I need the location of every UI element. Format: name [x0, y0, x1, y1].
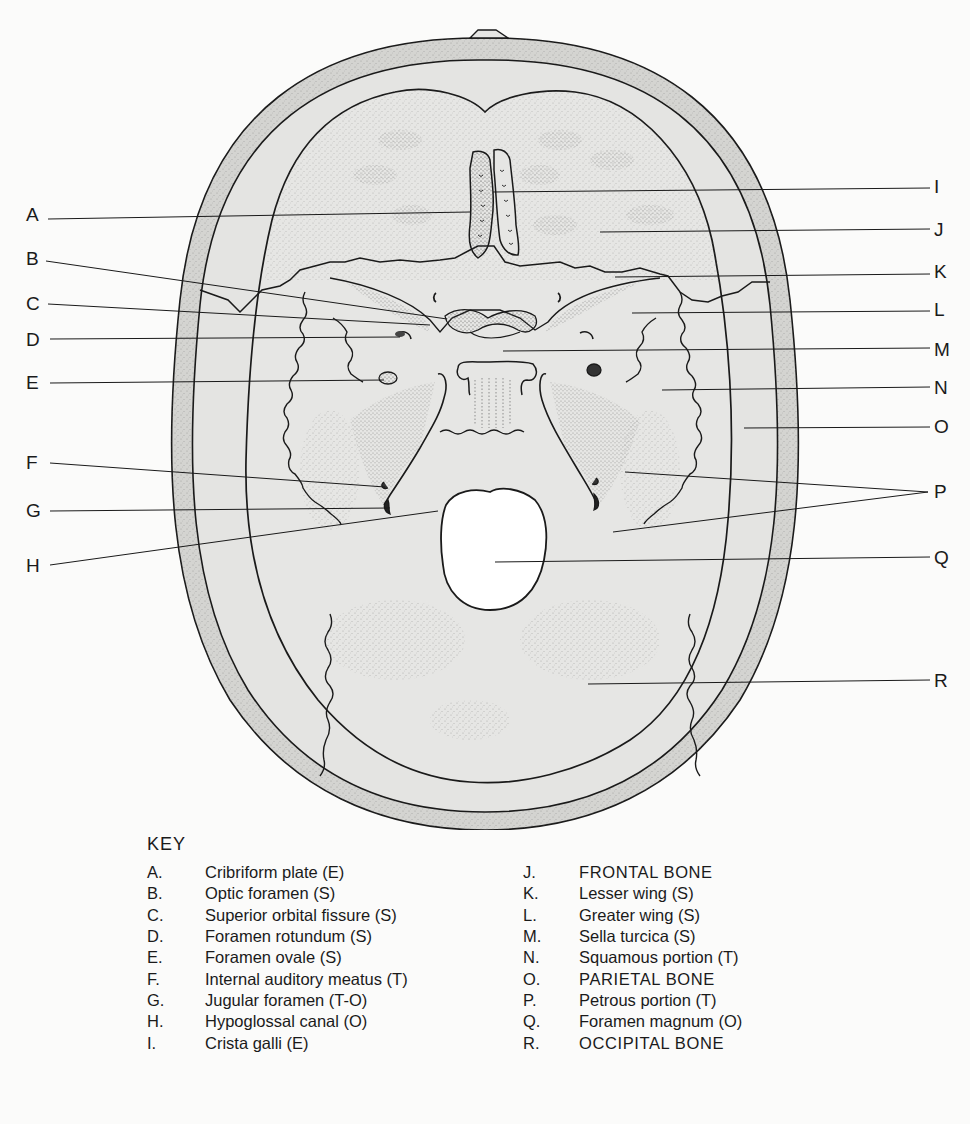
key-letter: F.: [147, 970, 205, 989]
callout-c: C: [26, 294, 40, 313]
key-text: Optic foramen (S): [205, 884, 335, 903]
key-text: Cribriform plate (E): [205, 863, 344, 882]
key-item: H.Hypoglossal canal (O): [147, 1011, 408, 1032]
key-title: KEY: [147, 834, 186, 855]
key-letter: B.: [147, 884, 205, 903]
key-text: Greater wing (S): [579, 906, 700, 925]
key-text: Foramen rotundum (S): [205, 927, 372, 946]
key-letter: E.: [147, 948, 205, 967]
callout-m: M: [934, 340, 950, 359]
callout-d: D: [26, 330, 40, 349]
callout-o: O: [934, 417, 949, 436]
callout-e: E: [26, 373, 39, 392]
key-letter: P.: [523, 991, 579, 1010]
key-text: Petrous portion (T): [579, 991, 717, 1010]
callout-h: H: [26, 556, 40, 575]
key-letter: N.: [523, 948, 579, 967]
callout-b: B: [26, 249, 39, 268]
key-text: Sella turcica (S): [579, 927, 695, 946]
key-text: Jugular foramen (T-O): [205, 991, 367, 1010]
key-letter: O.: [523, 970, 579, 989]
key-item: E.Foramen ovale (S): [147, 947, 408, 968]
callout-q: Q: [934, 548, 949, 567]
callout-j: J: [934, 220, 944, 239]
key-letter: I.: [147, 1034, 205, 1053]
key-item: B.Optic foramen (S): [147, 883, 408, 904]
callout-l: L: [934, 300, 945, 319]
callout-i: I: [934, 177, 939, 196]
key-column-2: J.FRONTAL BONE K.Lesser wing (S) L.Great…: [523, 862, 742, 1054]
key-letter: M.: [523, 927, 579, 946]
key-item: D.Foramen rotundum (S): [147, 926, 408, 947]
key-item: Q.Foramen magnum (O): [523, 1011, 742, 1032]
key-letter: H.: [147, 1012, 205, 1031]
key-letter: D.: [147, 927, 205, 946]
key-column-1: A.Cribriform plate (E) B.Optic foramen (…: [147, 862, 408, 1054]
key-item: O.PARIETAL BONE: [523, 968, 742, 989]
key-item: C.Superior orbital fissure (S): [147, 905, 408, 926]
key-letter: A.: [147, 863, 205, 882]
key-letter: R.: [523, 1034, 579, 1053]
key-item: N.Squamous portion (T): [523, 947, 742, 968]
key-text: OCCIPITAL BONE: [579, 1034, 724, 1053]
key-text: Squamous portion (T): [579, 948, 739, 967]
key-text: FRONTAL BONE: [579, 863, 713, 882]
key-text: Hypoglossal canal (O): [205, 1012, 367, 1031]
key-text: Lesser wing (S): [579, 884, 694, 903]
key-item: L.Greater wing (S): [523, 905, 742, 926]
key-text: PARIETAL BONE: [579, 970, 715, 989]
callout-n: N: [934, 378, 948, 397]
key-item: G.Jugular foramen (T-O): [147, 990, 408, 1011]
skull-base-diagram: [0, 0, 970, 830]
callout-g: G: [26, 501, 41, 520]
key-letter: G.: [147, 991, 205, 1010]
key-text: Foramen ovale (S): [205, 948, 342, 967]
key-item: R.OCCIPITAL BONE: [523, 1032, 742, 1053]
callout-p: P: [934, 482, 947, 501]
callout-r: R: [934, 671, 948, 690]
key-text: Internal auditory meatus (T): [205, 970, 408, 989]
key-item: K.Lesser wing (S): [523, 883, 742, 904]
callout-f: F: [26, 453, 38, 472]
key-text: Foramen magnum (O): [579, 1012, 742, 1031]
key-letter: L.: [523, 906, 579, 925]
key-letter: C.: [147, 906, 205, 925]
key-text: Crista galli (E): [205, 1034, 309, 1053]
key-letter: Q.: [523, 1012, 579, 1031]
key-item: J.FRONTAL BONE: [523, 862, 742, 883]
key-item: A.Cribriform plate (E): [147, 862, 408, 883]
key-letter: J.: [523, 863, 579, 882]
callout-a: A: [26, 205, 39, 224]
key-item: P.Petrous portion (T): [523, 990, 742, 1011]
key-item: F.Internal auditory meatus (T): [147, 968, 408, 989]
callout-k: K: [934, 262, 947, 281]
foramen-magnum: [441, 489, 546, 610]
key-text: Superior orbital fissure (S): [205, 906, 397, 925]
key-item: M.Sella turcica (S): [523, 926, 742, 947]
key-item: I.Crista galli (E): [147, 1032, 408, 1053]
key-letter: K.: [523, 884, 579, 903]
